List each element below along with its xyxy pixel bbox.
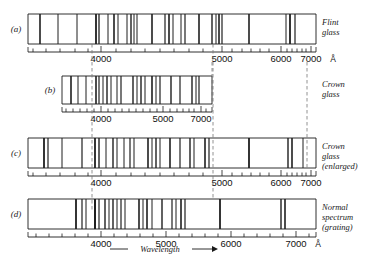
tick-label: 5000 <box>152 113 173 124</box>
tick-label: 4000 <box>90 113 111 124</box>
spectral-lines-a <box>40 14 295 44</box>
side-label-c: glass <box>322 151 340 161</box>
panel-label-d: (d) <box>11 209 22 219</box>
panel-label-c: (c) <box>11 148 21 158</box>
figure-canvas: (a)4000500060007000ÅFlintglass(b)4000500… <box>0 0 382 272</box>
side-label-b: glass <box>322 89 340 99</box>
panel-label-b: (b) <box>45 85 56 95</box>
wavelength-caption-label: Wavelength <box>140 244 179 254</box>
side-label-b: Crown <box>322 79 345 89</box>
side-label-a: Flint <box>321 17 339 27</box>
side-label-a: glass <box>322 27 340 37</box>
side-label-d: (grating) <box>322 222 353 232</box>
panel-d: (d)4000500060007000ÅNormalspectrum(grati… <box>11 199 353 249</box>
panel-a: (a)4000500060007000ÅFlintglass <box>11 14 340 64</box>
tick-label: 5000 <box>211 53 232 64</box>
spectral-lines-b <box>71 76 199 104</box>
unit-angstrom-d: Å <box>315 239 321 249</box>
side-label-c: (enlarged) <box>322 161 358 171</box>
spectral-lines-d <box>76 199 285 229</box>
panel-label-a: (a) <box>11 24 22 34</box>
tick-label: 5000 <box>211 177 232 188</box>
tick-label: 7000 <box>285 238 306 249</box>
tick-label: 6000 <box>220 238 241 249</box>
unit-angstrom-a: Å <box>330 54 336 64</box>
spectral-lines-c <box>44 138 303 168</box>
side-label-d: spectrum <box>322 212 353 222</box>
panel-b: (b)400050007000Crownglass <box>45 76 345 124</box>
tick-label: 4000 <box>90 177 111 188</box>
tick-label: 4000 <box>90 53 111 64</box>
tick-label: 7000 <box>300 177 321 188</box>
panel-c: (c)4000500060007000Crownglass(enlarged) <box>11 138 358 188</box>
tick-label: 7000 <box>190 113 211 124</box>
wavelength-caption-arrow-head <box>212 246 218 252</box>
tick-label: 7000 <box>300 53 321 64</box>
tick-label: 4000 <box>90 238 111 249</box>
spectrum-comparison-figure: (a)4000500060007000ÅFlintglass(b)4000500… <box>0 0 382 272</box>
side-label-c: Crown <box>322 141 345 151</box>
tick-label: 6000 <box>270 177 291 188</box>
tick-label: 6000 <box>270 53 291 64</box>
side-label-d: Normal <box>321 202 349 212</box>
